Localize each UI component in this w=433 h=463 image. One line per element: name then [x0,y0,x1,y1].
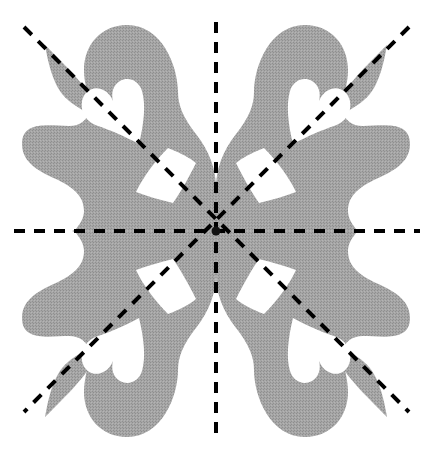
symmetry-figure [0,0,433,463]
center-point [212,227,221,236]
caption [0,447,433,463]
figure-container [0,0,433,463]
